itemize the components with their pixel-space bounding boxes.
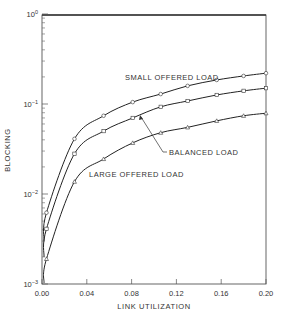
balanced-load-label: BALANCED LOAD [169,148,239,157]
y-tick-label: 10−3 [23,279,38,289]
y-axis-ticks: 10−310−210−1100 [23,9,48,289]
x-tick-label: 0.12 [169,289,184,298]
y-axis-label: BLOCKING [3,128,12,172]
balanced-load-arrow [139,115,167,152]
data-markers [44,71,268,260]
x-axis-label: LINK UTILIZATION [117,302,191,311]
x-axis-ticks: 0.000.040.080.120.160.20 [35,279,274,298]
blocking-vs-utilization-chart: 10−310−210−1100 0.000.040.080.120.160.20… [0,0,286,319]
x-tick-label: 0.08 [124,289,139,298]
x-tick-label: 0.20 [259,289,274,298]
x-tick-label: 0.16 [214,289,229,298]
y-tick-label: 10−1 [23,99,38,109]
small-offered-load-label: SMALL OFFERED LOAD [125,73,219,82]
x-tick-label: 0.04 [79,289,94,298]
large-offered-load-label: LARGE OFFERED LOAD [89,170,184,179]
x-tick-label: 0.00 [35,289,50,298]
y-tick-label: 100 [27,9,38,19]
y-tick-label: 10−2 [23,189,38,199]
